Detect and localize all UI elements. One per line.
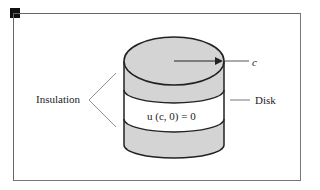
insulation-label: Insulation: [36, 93, 80, 105]
boundary-condition-label: u (c, 0) = 0: [147, 110, 196, 122]
disk-label: Disk: [255, 94, 276, 106]
insulation-leader-lower: [89, 100, 116, 127]
insulation-leader-upper: [89, 73, 116, 100]
radius-label: c: [252, 56, 257, 68]
